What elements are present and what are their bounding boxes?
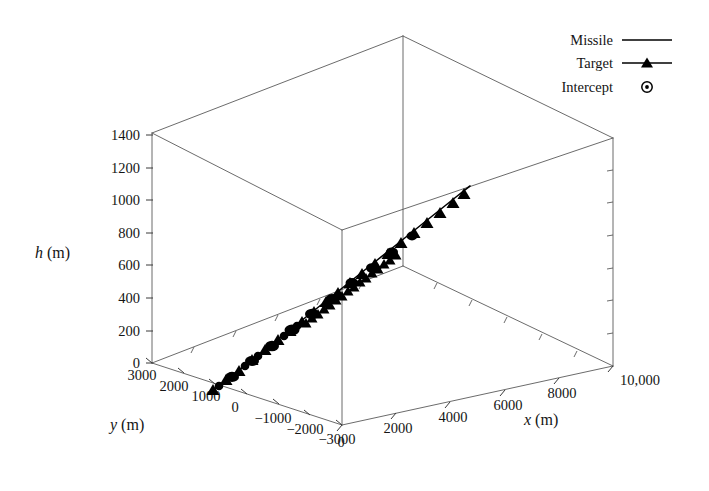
z-axis-title-symbol: h (35, 244, 43, 261)
z-axis-title-unit: (m) (47, 244, 70, 262)
legend-label-target: Target (576, 55, 613, 71)
cluster-blob (407, 232, 418, 241)
cluster-blob (346, 278, 359, 288)
y-axis-title-symbol: y (108, 416, 118, 434)
z-tick-label-600: 600 (118, 257, 140, 273)
cluster-blob (225, 372, 239, 382)
z-tick-label-400: 400 (118, 290, 140, 306)
x-tick-label-2000: 2000 (384, 420, 413, 436)
x-tick-label-6000: 6000 (494, 397, 523, 413)
y-tick-label-0: 0 (231, 399, 238, 415)
y-tick-label-2000: 2000 (160, 378, 189, 394)
cluster-blob (285, 325, 300, 336)
cluster-blob (305, 309, 319, 319)
x-tick-label-0: 0 (337, 434, 344, 450)
plot-canvas: 1400 1200 1000 800 600 400 200 0 h(m) 30… (0, 0, 709, 491)
cluster-blob (366, 263, 378, 273)
figure-background (0, 0, 709, 491)
cluster-blob (245, 356, 259, 366)
x-tick-label-4000: 4000 (439, 409, 468, 425)
x-axis-title-unit: (m) (535, 411, 558, 429)
z-tick-label-1200: 1200 (111, 160, 140, 176)
z-tick-label-1000: 1000 (111, 192, 140, 208)
plot-figure: 1400 1200 1000 800 600 400 200 0 h(m) 30… (0, 0, 709, 491)
x-tick-label-10000: 10,000 (620, 372, 660, 388)
z-axis-title: h(m) (35, 244, 70, 262)
legend-label-missile: Missile (570, 32, 613, 48)
cluster-blob (326, 294, 339, 304)
z-tick-label-1400: 1400 (111, 127, 140, 143)
z-tick-label-800: 800 (118, 225, 140, 241)
legend-label-intercept: Intercept (561, 79, 613, 95)
cluster-blob (265, 341, 279, 351)
y-axis-title-unit: (m) (121, 416, 144, 434)
z-tick-label-200: 200 (118, 323, 140, 339)
cluster-blob (386, 247, 398, 256)
x-axis-title-symbol: x (523, 411, 531, 428)
y-axis-title: y(m) (108, 416, 144, 434)
intercept-marker (215, 382, 224, 391)
x-axis-title: x(m) (523, 411, 558, 429)
y-tick-label-3000: 3000 (128, 367, 157, 383)
x-tick-label-8000: 8000 (548, 385, 577, 401)
